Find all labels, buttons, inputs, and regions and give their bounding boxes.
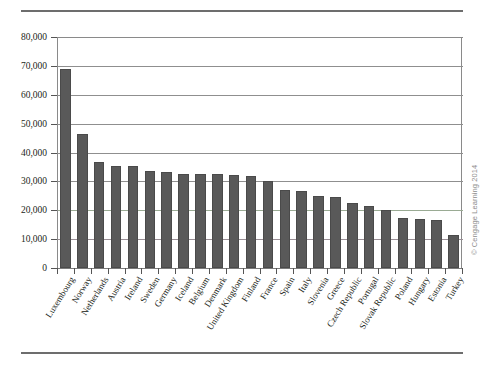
y-tick-label: 50,000 [21,119,47,129]
x-tick-label: Spain [277,275,296,298]
bar [296,191,307,268]
bar [347,203,358,268]
bar [448,235,459,268]
bar [431,220,442,268]
y-tick-label: 80,000 [21,32,47,42]
bar [128,166,139,268]
bar [60,69,71,268]
bar [381,210,392,268]
y-axis: 010,00020,00030,00040,00050,00060,00070,… [0,0,57,300]
y-tick-label: 20,000 [21,205,47,215]
bar [212,174,223,268]
bar [111,166,122,269]
bar [398,218,409,268]
y-tick-label: 40,000 [21,148,47,158]
bar [330,197,341,268]
bar [263,181,274,268]
bar [195,174,206,268]
bar [415,219,426,268]
bar [364,206,375,268]
x-axis-labels: LuxembourgNorwayNetherlandsAustriaIrelan… [0,268,496,363]
top-divider-rule [21,10,463,12]
bar [161,172,172,268]
copyright-credit: © Cengage Learning 2014 [470,165,479,255]
bar [246,176,257,268]
y-tick-label: 10,000 [21,234,47,244]
bar [94,162,105,268]
y-tick-label: 60,000 [21,90,47,100]
chart-figure: 010,00020,00030,00040,00050,00060,00070,… [0,0,496,365]
y-tick-label: 30,000 [21,176,47,186]
y-tick-label: 70,000 [21,61,47,71]
bar [280,190,291,268]
bar-series [57,37,462,268]
bar [145,171,156,268]
bar [313,196,324,268]
bar [178,174,189,268]
bar [229,175,240,268]
bar [77,134,88,268]
